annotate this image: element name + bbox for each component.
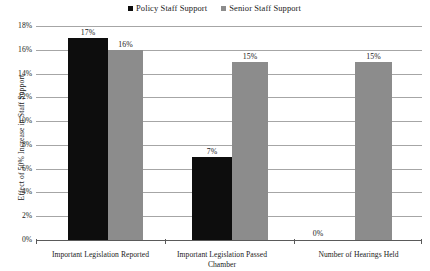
bar-senior-staff-support-group-3 [355,62,392,240]
bar-value-senior-group-1: 16% [108,40,143,49]
legend-label-senior-staff-support: Senior Staff Support [229,3,301,14]
y-tick-label-0: 0% [0,236,32,244]
legend-swatch-senior-staff-support [221,6,226,11]
x-axis-baseline [36,240,422,241]
x-axis-label-important-legislation-passed-chamber: Important Legislation Passed Chamber [172,250,272,269]
bar-value-senior-group-3: 15% [355,52,392,61]
y-tick-label-18: 18% [0,22,32,30]
x-tick-1 [165,239,166,244]
x-axis-label-important-legislation-reported: Important Legislation Reported [36,250,165,260]
legend-entry-policy-staff-support: Policy Staff Support [128,3,207,14]
bar-value-senior-group-2: 15% [232,52,268,61]
legend-entry-senior-staff-support: Senior Staff Support [221,3,301,14]
y-tick-label-12: 12% [0,93,32,101]
y-tick-label-6: 6% [0,165,32,173]
bar-policy-staff-support-group-1 [68,38,108,240]
x-tick-3 [421,239,422,244]
chart-legend: Policy Staff Support Senior Staff Suppor… [128,3,301,14]
legend-label-policy-staff-support: Policy Staff Support [136,3,207,14]
gridline-18: 18% [36,26,422,27]
y-tick-label-14: 14% [0,70,32,78]
x-axis-label-number-of-hearings-held: Number of Hearings Held [294,250,423,260]
y-tick-label-10: 10% [0,117,32,125]
bar-senior-staff-support-group-1 [108,50,143,240]
bar-senior-staff-support-group-2 [232,62,268,240]
y-tick-label-4: 4% [0,188,32,196]
bar-chart: Policy Staff Support Senior Staff Suppor… [0,0,430,271]
legend-swatch-policy-staff-support [128,6,133,11]
x-tick-2 [294,239,295,244]
y-tick-label-2: 2% [0,212,32,220]
y-tick-label-16: 16% [0,46,32,54]
y-tick-label-8: 8% [0,141,32,149]
bar-policy-staff-support-group-2 [192,157,232,240]
bar-value-policy-group-2: 7% [192,147,232,156]
bar-value-policy-group-3: 0% [298,229,338,238]
bar-value-policy-group-1: 17% [68,28,108,37]
y-axis-title: Effect of 50% Increase in Staff Support [17,38,26,238]
x-tick-0 [36,239,37,244]
plot-area: 18% 16% 14% 12% 10% 8% 6% 4% 2% 0% [36,26,422,240]
